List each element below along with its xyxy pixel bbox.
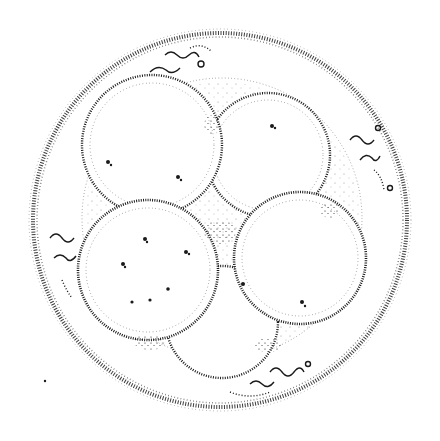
blastomere-top-left [82, 75, 222, 215]
polar-body-right [350, 126, 393, 191]
stray-dot [44, 380, 46, 382]
polar-body-top [150, 46, 212, 73]
blastomere-bottom-right [234, 192, 366, 324]
polar-body-left [50, 234, 76, 298]
blastomere-bottom-left [78, 200, 218, 340]
embryo-illustration: Four-cell embryo within zona pellucida (… [0, 0, 440, 441]
embryo-drawing [0, 0, 440, 441]
